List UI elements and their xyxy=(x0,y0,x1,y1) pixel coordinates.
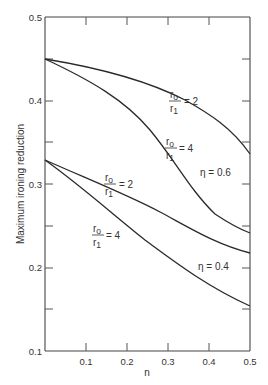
annotation-eta06: η = 0.6 xyxy=(200,167,231,178)
svg-text:0.5: 0.5 xyxy=(243,356,256,367)
svg-text:ro: ro xyxy=(166,136,174,149)
svg-text:= 4: = 4 xyxy=(106,230,121,241)
svg-text:ro: ro xyxy=(170,89,178,102)
svg-text:= 2: = 2 xyxy=(184,96,199,107)
curve-eta06-ratio2 xyxy=(45,59,250,154)
annotation-eta04-ratio4: ro r1 = 4 xyxy=(92,223,121,250)
annotation-eta06-ratio2: ro r1 = 2 xyxy=(169,89,199,116)
svg-text:ro: ro xyxy=(93,223,101,236)
svg-text:= 2: = 2 xyxy=(119,179,134,190)
svg-text:0.2: 0.2 xyxy=(29,262,42,273)
svg-text:0.5: 0.5 xyxy=(29,12,42,23)
svg-text:r1: r1 xyxy=(93,237,101,250)
x-axis-label: n xyxy=(144,367,150,378)
curve-eta04-ratio4 xyxy=(45,160,250,306)
svg-text:r1: r1 xyxy=(166,150,174,163)
curve-eta06-ratio4 xyxy=(45,59,250,233)
svg-text:ro: ro xyxy=(105,172,113,185)
svg-text:0.4: 0.4 xyxy=(202,356,215,367)
annotation-eta06-ratio4: ro r1 = 4 xyxy=(165,136,194,163)
x-tick-labels: 0.1 0.2 0.3 0.4 0.5 xyxy=(79,356,256,367)
y-axis-label: Maximum ironing reduction xyxy=(15,124,26,244)
svg-text:0.1: 0.1 xyxy=(79,356,92,367)
svg-text:= 4: = 4 xyxy=(179,143,194,154)
svg-text:0.3: 0.3 xyxy=(29,179,42,190)
svg-text:r1: r1 xyxy=(170,103,178,116)
annotation-eta04-ratio2: ro r1 = 2 xyxy=(104,172,134,199)
svg-text:0.3: 0.3 xyxy=(161,356,174,367)
annotation-eta04: η = 0.4 xyxy=(198,261,229,272)
svg-text:0.2: 0.2 xyxy=(120,356,133,367)
ironing-reduction-chart: 0.5 0.4 0.3 0.2 0.1 0.1 0.2 0.3 0.4 0.5 … xyxy=(0,0,268,385)
y-tick-labels: 0.5 0.4 0.3 0.2 0.1 xyxy=(29,12,42,357)
svg-text:0.1: 0.1 xyxy=(29,346,42,357)
svg-text:0.4: 0.4 xyxy=(29,95,42,106)
